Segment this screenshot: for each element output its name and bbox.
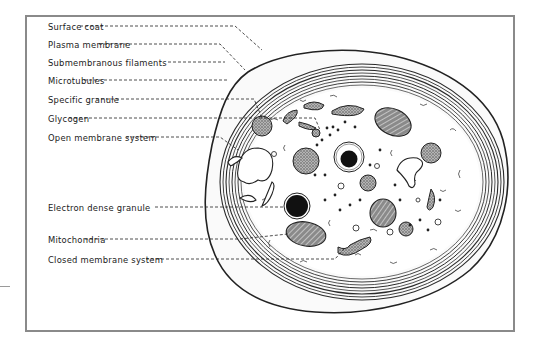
label-microtubules: Microtubules [48,76,105,86]
label-plasma-membrane: Plasma membrane [48,40,130,50]
label-submembranous-filaments: Submembranous filaments [48,58,167,68]
electron-dense-granule [284,193,310,219]
label-electron-dense-granule: Electron dense granule [48,203,150,213]
label-closed-membrane-system: Closed membrane system [48,255,163,265]
dense-core-granule [334,142,364,172]
label-surface-coat: Surface coat [48,22,104,32]
label-specific-granule: Specific granule [48,95,119,105]
label-glycogen: Glycogen [48,114,89,124]
label-open-membrane-system: Open membrane system [48,133,157,143]
platelet-illustration [0,0,536,350]
label-mitochondria: Mitochondria [48,235,106,245]
